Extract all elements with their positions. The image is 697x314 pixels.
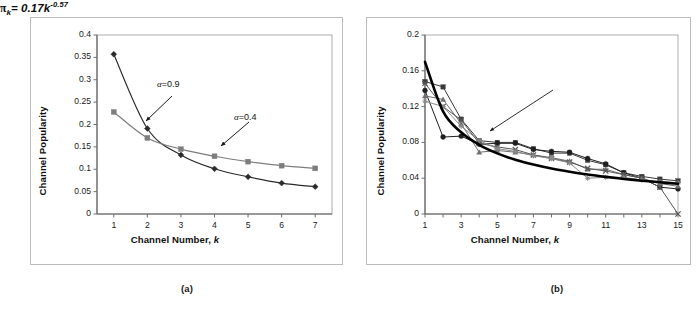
panel-b-x-tick-label: 9 — [558, 220, 582, 230]
panel-a-y-tick-label: 0.15 — [53, 141, 91, 151]
panel-a-x-tick-label: 3 — [169, 220, 193, 230]
panel-a-y-tick-label: 0.3 — [53, 74, 91, 84]
panel-a-alpha-value-1: =0.9 — [162, 79, 180, 89]
panel-b-y-tick-label: 0.12 — [381, 101, 419, 111]
figure-two-panel-chart: 00.050.10.150.20.250.30.350.41234567 Cha… — [0, 0, 697, 314]
panel-a-annotation-alpha-09: α=0.9 — [157, 79, 180, 89]
panel-a-x-tick-label: 4 — [203, 220, 227, 230]
panel-b-x-tick-label: 11 — [594, 220, 618, 230]
panel-a-y-axis-title: Channel Popularity — [37, 56, 48, 196]
panel-b-y-axis-title: Channel Popularity — [375, 56, 386, 196]
panel-a-x-tick-label: 1 — [102, 220, 126, 230]
panel-a-x-axis-title: Channel Number, k — [85, 234, 265, 245]
panel-a-y-tick-label: 0.35 — [53, 51, 91, 61]
panel-b-y-tick-label: 0.2 — [381, 29, 419, 39]
panel-b-equation-annotation: πk= 0.17k-0.57 — [0, 0, 697, 17]
panel-a-x-axis-title-text: Channel Number, — [131, 234, 214, 245]
panel-a-y-tick-label: 0.4 — [53, 29, 91, 39]
panel-b-x-tick-label: 7 — [521, 220, 545, 230]
panel-a-annotation-alpha-04: α=0.4 — [234, 112, 257, 122]
panel-a-y-tick-label: 0 — [53, 208, 91, 218]
panel-a-x-tick-label: 5 — [236, 220, 260, 230]
panel-b-x-tick-label: 13 — [630, 220, 654, 230]
panel-b-x-tick-label: 15 — [666, 220, 690, 230]
panel-b-y-tick-label: 0 — [381, 208, 419, 218]
panel-a-y-tick-label: 0.1 — [53, 163, 91, 173]
panel-b-x-axis-title-text: Channel Number, — [471, 234, 554, 245]
panel-a-y-tick-label: 0.25 — [53, 96, 91, 106]
panel-b-x-tick-label: 3 — [449, 220, 473, 230]
chart-panel-a: 00.050.10.150.20.250.30.350.41234567 — [30, 17, 343, 265]
panel-b-equation-body: = 0.17k — [11, 2, 50, 14]
panel-b-y-tick-label: 0.04 — [381, 172, 419, 182]
panel-a-caption: (a) — [167, 283, 207, 294]
panel-b-x-axis-title: Channel Number, k — [425, 234, 605, 245]
panel-b-caption: (b) — [537, 283, 577, 294]
panel-b-y-tick-label: 0.16 — [381, 65, 419, 75]
panel-a-alpha-value-2: =0.4 — [239, 112, 257, 122]
panel-b-x-tick-label: 1 — [413, 220, 437, 230]
panel-a-x-tick-label: 2 — [135, 220, 159, 230]
panel-a-x-axis-title-symbol: k — [214, 234, 219, 245]
panel-b-x-tick-label: 5 — [485, 220, 509, 230]
panel-a-x-tick-label: 6 — [270, 220, 294, 230]
panel-a-y-tick-label: 0.2 — [53, 119, 91, 129]
chart-panel-b: 00.040.080.120.160.213579111315 — [366, 17, 691, 265]
panel-b-x-axis-title-symbol: k — [554, 234, 559, 245]
panel-a-y-tick-label: 0.05 — [53, 186, 91, 196]
panel-b-y-tick-label: 0.08 — [381, 136, 419, 146]
panel-b-equation-exponent: -0.57 — [50, 0, 68, 9]
panel-a-x-tick-label: 7 — [303, 220, 327, 230]
